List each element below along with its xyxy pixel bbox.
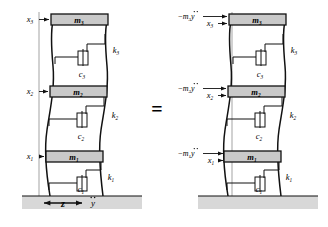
right-displacement-label-x1: x1 xyxy=(207,155,215,166)
left-displacement-x3: x3 xyxy=(26,14,49,25)
left-mass-m3: m3 xyxy=(51,14,108,26)
right-displacement-x1: x1 xyxy=(207,155,223,166)
left-displacement-label-x3: x3 xyxy=(26,14,34,25)
ground-displacement-label-z: z xyxy=(60,198,65,209)
ground-acceleration-symbol: y xyxy=(90,198,95,208)
left-column-outer xyxy=(46,21,54,196)
left-displacement-x2: x2 xyxy=(26,86,48,97)
right-inertial-force-label-f2: −m2y xyxy=(177,84,195,94)
right-inertial-force-f1: −m1y xyxy=(177,148,223,159)
ground-acceleration-label-ydd: y xyxy=(90,197,95,208)
left-displacement-x1: x1 xyxy=(26,151,44,162)
right-damper-c3 xyxy=(233,34,283,66)
shear-building-equivalence-figure: c3 c2 c1 m3 xyxy=(0,0,328,227)
right-stiffness-label-k3: k3 xyxy=(291,45,298,56)
right-mass-m1: m1 xyxy=(224,151,281,163)
right-damper-c2 xyxy=(227,96,282,128)
left-mass-m2: m2 xyxy=(50,86,107,98)
right-displacement-label-x2: x2 xyxy=(206,90,214,101)
left-stiffness-label-k3: k3 xyxy=(113,45,120,56)
ground-right xyxy=(198,196,318,209)
right-mass-m3: m3 xyxy=(229,14,286,26)
right-displacement-x3: x3 xyxy=(206,18,227,29)
right-damper-c1 xyxy=(227,162,279,192)
left-damper-label-c3: c3 xyxy=(79,69,86,80)
left-stiffness-label-k1: k1 xyxy=(108,172,115,183)
left-damper-c3 xyxy=(55,34,105,66)
right-inertial-force-label-f3: −m3y xyxy=(177,12,195,22)
figure-canvas: c3 c2 c1 m3 xyxy=(0,0,328,227)
right-displacement-label-x3: x3 xyxy=(206,18,214,29)
left-model-group: c3 c2 c1 m3 xyxy=(22,12,142,209)
right-model-group: c3 c2 c1 m3 xyxy=(177,11,318,209)
right-damper-label-c3: c3 xyxy=(257,69,264,80)
left-displacement-label-x2: x2 xyxy=(26,86,34,97)
right-damper-label-c2: c2 xyxy=(256,131,263,142)
right-stiffness-label-k1: k1 xyxy=(286,172,293,183)
equals-sign: = xyxy=(151,98,162,120)
left-damper-c2 xyxy=(49,96,104,128)
left-damper-label-c1: c1 xyxy=(78,184,85,195)
left-stiffness-label-k2: k2 xyxy=(112,110,119,121)
right-displacement-x2: x2 xyxy=(206,90,226,101)
left-damper-label-c2: c2 xyxy=(78,131,85,142)
right-damper-label-c1: c1 xyxy=(256,184,263,195)
right-mass-m2: m2 xyxy=(228,86,285,98)
right-inertial-force-label-f1: −m1y xyxy=(177,149,195,159)
right-stiffness-label-k2: k2 xyxy=(290,110,297,121)
right-inertial-force-f3: −m3y xyxy=(177,11,227,22)
left-damper-c1 xyxy=(49,162,101,192)
left-mass-m1: m1 xyxy=(46,151,103,163)
right-inertial-force-f2: −m2y xyxy=(177,83,226,94)
right-column-outer xyxy=(224,21,232,196)
left-displacement-label-x1: x1 xyxy=(26,151,34,162)
